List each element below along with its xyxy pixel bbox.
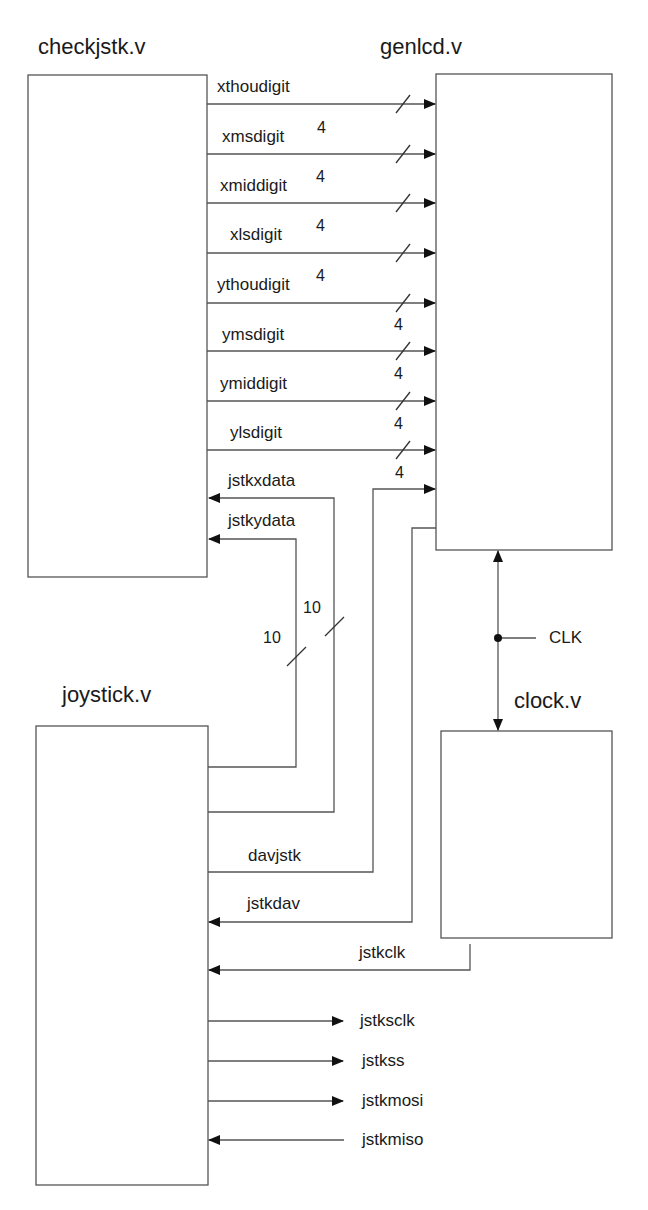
clock-title: clock.v <box>514 690 581 712</box>
bus-width-10: 10 <box>303 600 321 616</box>
clock-box <box>441 731 612 938</box>
signal-label-clk: CLK <box>549 629 582 646</box>
signal-label-jstkxdata: jstkxdata <box>228 472 295 489</box>
signal-label-jstkydata: jstkydata <box>228 512 295 529</box>
port-label-jstkss: jstkss <box>362 1052 405 1069</box>
bus-label-xmiddigit: xmiddigit <box>220 177 287 194</box>
bus-width: 4 <box>317 120 326 136</box>
bus-label-ymiddigit: ymiddigit <box>220 375 287 392</box>
bus-width: 4 <box>316 268 325 284</box>
genlcd-title: genlcd.v <box>380 36 462 58</box>
port-label-jstkmosi: jstkmosi <box>362 1092 423 1109</box>
bus-width: 4 <box>394 317 403 333</box>
bus-label-ythoudigit: ythoudigit <box>217 276 290 293</box>
bus-width-10: 10 <box>263 630 281 646</box>
bus-label-xlsdigit: xlsdigit <box>230 226 282 243</box>
clk-junction <box>494 634 502 642</box>
bus-label-xthoudigit: xthoudigit <box>217 78 290 95</box>
bus-width: 4 <box>394 366 403 382</box>
bus-width: 4 <box>395 465 404 481</box>
signal-label-jstkclk: jstkclk <box>359 944 405 961</box>
bus-width: 4 <box>316 169 325 185</box>
bus-label-xmsdigit: xmsdigit <box>222 128 284 145</box>
port-label-jstkmiso: jstkmiso <box>362 1131 423 1148</box>
port-label-jstksclk: jstksclk <box>360 1012 415 1029</box>
signal-label-jstkdav: jstkdav <box>247 895 300 912</box>
joystick-box <box>36 726 208 1185</box>
bus-label-ymsdigit: ymsdigit <box>222 326 284 343</box>
bus-label-ylsdigit: ylsdigit <box>230 424 282 441</box>
joystick-title: joystick.v <box>62 684 151 706</box>
checkjstk-title: checkjstk.v <box>38 36 146 58</box>
genlcd-box <box>436 74 612 550</box>
signal-label-davjstk: davjstk <box>248 847 301 864</box>
checkjstk-box <box>28 75 207 577</box>
bus-width: 4 <box>316 218 325 234</box>
bus-width: 4 <box>394 416 403 432</box>
